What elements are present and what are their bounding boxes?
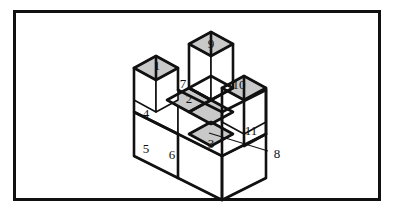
cube-label-4: 4 [143, 106, 150, 121]
cube-label-1: 1 [154, 58, 161, 73]
cube-label-8: 8 [274, 146, 281, 161]
cube-label-3: 3 [208, 136, 215, 151]
cube-label-6: 6 [169, 147, 176, 162]
cube-label-7: 7 [180, 76, 187, 91]
isometric-cube-diagram: 1 2 3 4 5 6 7 9 10 11 8 [0, 0, 399, 217]
cube-label-11: 11 [245, 123, 258, 138]
cube-label-10: 10 [233, 77, 246, 92]
cube-label-2: 2 [186, 91, 193, 106]
cube-label-5: 5 [143, 141, 150, 156]
cube-label-9: 9 [208, 36, 215, 51]
figure-page: 1 2 3 4 5 6 7 9 10 11 8 [0, 0, 399, 217]
